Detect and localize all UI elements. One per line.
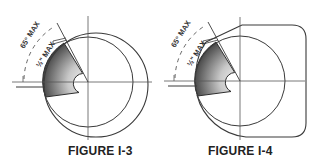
figure-i-4: 65° MAX ½" MAX FIGURE I-4 [155,0,317,168]
label-65-max: 65° MAX [18,20,42,50]
label-65-max: 65° MAX [169,19,193,49]
figure-i-4-drawing: 65° MAX ½" MAX [155,0,317,168]
figure-i-3: 65° MAX ½" MAX FIGURE I-3 [0,0,158,168]
figure-i-3-caption: FIGURE I-3 [68,144,133,158]
figure-i-3-drawing: 65° MAX ½" MAX [0,0,158,168]
figure-i-4-caption: FIGURE I-4 [208,144,273,158]
